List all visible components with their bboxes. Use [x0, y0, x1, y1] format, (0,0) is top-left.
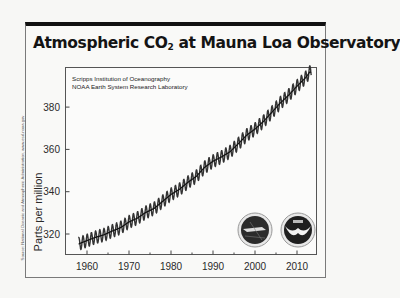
x-tick-label: 1980 — [160, 261, 183, 272]
y-tick-label: 340 — [43, 186, 60, 197]
plot-area — [66, 68, 317, 255]
x-tick-label: 1960 — [76, 261, 99, 272]
y-tick-label: 380 — [43, 102, 60, 113]
credit-scripps: Scripps Institution of Oceanography — [72, 75, 171, 82]
scripps-logo — [238, 213, 272, 247]
x-tick-label: 1990 — [202, 261, 225, 272]
noaa-logo — [281, 213, 315, 247]
credit-noaa: NOAA Earth System Research Laboratory — [72, 83, 188, 90]
x-tick-label: 1970 — [118, 261, 141, 272]
y-tick-label: 360 — [43, 144, 60, 155]
y-tick-label: 320 — [43, 229, 60, 240]
x-tick-label: 2010 — [286, 261, 309, 272]
x-tick-label: 2000 — [244, 261, 267, 272]
